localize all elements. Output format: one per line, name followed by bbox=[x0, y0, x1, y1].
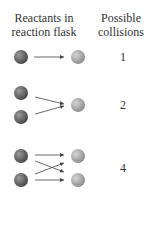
collision-count-2: 2 bbox=[113, 98, 133, 113]
reactant-sphere-dark bbox=[14, 173, 28, 187]
row-1 bbox=[14, 50, 85, 64]
collision-arrow bbox=[35, 161, 64, 172]
collision-arrow bbox=[35, 106, 64, 114]
reactant-sphere-light bbox=[71, 173, 85, 187]
collision-count-1: 1 bbox=[113, 50, 133, 65]
reactant-sphere-dark bbox=[14, 86, 28, 100]
collision-arrow bbox=[35, 97, 64, 104]
reactant-sphere-light bbox=[71, 50, 85, 64]
reactant-sphere-dark bbox=[14, 149, 28, 163]
reactant-sphere-light bbox=[71, 149, 85, 163]
row-3 bbox=[14, 149, 85, 187]
reactant-sphere-dark bbox=[14, 110, 28, 124]
collision-count-3: 4 bbox=[113, 161, 133, 176]
collision-arrow bbox=[35, 163, 64, 174]
reactant-sphere-dark bbox=[14, 50, 28, 64]
reactant-sphere-light bbox=[71, 98, 85, 112]
row-2 bbox=[14, 86, 85, 124]
